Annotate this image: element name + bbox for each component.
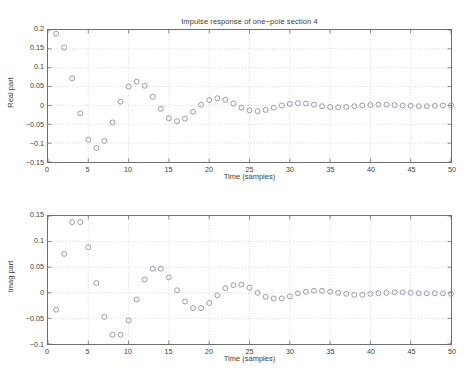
data-point <box>134 79 139 84</box>
data-point <box>215 293 220 298</box>
data-point <box>110 332 115 337</box>
data-point <box>70 76 75 81</box>
data-point <box>183 299 188 304</box>
data-point <box>424 104 429 109</box>
y-tick-label: −0.1 <box>2 340 44 349</box>
data-point <box>102 138 107 143</box>
data-point <box>424 291 429 296</box>
data-point <box>54 31 59 36</box>
y-axis-label-imag: Imag part <box>6 261 15 293</box>
data-point <box>303 289 308 294</box>
data-point <box>215 96 220 101</box>
data-point <box>352 292 357 297</box>
data-point <box>126 318 131 323</box>
data-point <box>376 291 381 296</box>
data-point <box>134 297 139 302</box>
data-point <box>279 296 284 301</box>
scatter-plot-imag <box>48 216 451 344</box>
data-point <box>440 291 445 296</box>
y-tick-label: −0.05 <box>2 314 44 323</box>
data-point <box>295 101 300 106</box>
data-point <box>239 105 244 110</box>
data-point <box>416 291 421 296</box>
data-point <box>263 294 268 299</box>
y-tick-label: 0.1 <box>2 62 44 71</box>
data-point <box>142 277 147 282</box>
data-point <box>432 103 437 108</box>
data-point <box>62 45 67 50</box>
data-point <box>352 104 357 109</box>
data-point <box>62 251 67 256</box>
data-point <box>303 101 308 106</box>
y-tick-label: 0.2 <box>2 24 44 33</box>
data-point <box>231 283 236 288</box>
data-point <box>239 282 244 287</box>
data-point <box>271 296 276 301</box>
data-point <box>191 306 196 311</box>
y-tick-label: −0.05 <box>2 120 44 129</box>
scatter-plot-real <box>48 30 451 162</box>
data-point <box>295 291 300 296</box>
data-point <box>102 314 107 319</box>
data-point <box>199 102 204 107</box>
figure-canvas: Impulse response of one−pole section 4 R… <box>0 0 468 372</box>
data-point <box>223 97 228 102</box>
y-tick-label: −0.1 <box>2 139 44 148</box>
data-point <box>110 120 115 125</box>
y-tick-label: 0.15 <box>2 43 44 52</box>
data-point <box>191 109 196 114</box>
data-point <box>94 146 99 151</box>
data-point <box>94 281 99 286</box>
chart-panel-imag-part: Imag part Time (samples) −0.1−0.0500.050… <box>0 186 468 372</box>
x-axis-label-imag: Time (samples) <box>47 354 452 363</box>
data-point <box>54 307 59 312</box>
data-point <box>174 119 179 124</box>
data-point <box>449 291 454 296</box>
data-point <box>384 290 389 295</box>
data-point <box>150 94 155 99</box>
data-point <box>263 107 268 112</box>
data-point <box>344 291 349 296</box>
data-point <box>320 104 325 109</box>
data-point <box>118 332 123 337</box>
data-point <box>118 99 123 104</box>
data-point <box>174 288 179 293</box>
x-axis-label-real: Time (samples) <box>47 172 452 181</box>
data-point <box>223 286 228 291</box>
data-point <box>78 111 83 116</box>
data-point <box>376 102 381 107</box>
data-point <box>392 103 397 108</box>
data-point <box>271 105 276 110</box>
data-point <box>311 102 316 107</box>
y-axis-label-real: Real part <box>6 77 15 107</box>
data-point <box>432 291 437 296</box>
data-point <box>320 288 325 293</box>
chart-panel-real-part: Impulse response of one−pole section 4 R… <box>0 0 468 186</box>
data-point <box>78 220 83 225</box>
data-point <box>199 306 204 311</box>
data-point <box>400 290 405 295</box>
data-point <box>344 104 349 109</box>
data-point <box>183 116 188 121</box>
y-tick-label: 0.15 <box>2 210 44 219</box>
chart-title: Impulse response of one−pole section 4 <box>47 17 452 26</box>
y-tick-label: −0.15 <box>2 158 44 167</box>
plot-area-imag <box>47 215 452 345</box>
data-point <box>142 83 147 88</box>
data-point <box>70 220 75 225</box>
data-point <box>368 103 373 108</box>
data-point <box>392 290 397 295</box>
data-point <box>158 266 163 271</box>
y-tick-label: 0.1 <box>2 236 44 245</box>
data-point <box>368 291 373 296</box>
data-point <box>255 109 260 114</box>
data-point <box>158 106 163 111</box>
data-point <box>416 104 421 109</box>
data-point <box>384 102 389 107</box>
plot-area-real <box>47 29 452 163</box>
